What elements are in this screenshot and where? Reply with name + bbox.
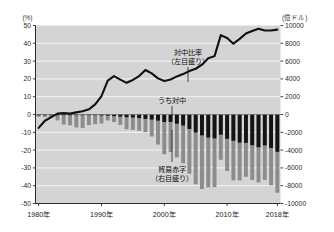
bar-china-deficit [200, 115, 204, 136]
bar-total-deficit [74, 115, 78, 128]
left-axis-tick-label: 20 [23, 75, 31, 82]
bar-total-deficit [62, 115, 66, 125]
bar-china-deficit [175, 115, 179, 124]
x-axis-tick-label: 2000年 [153, 210, 176, 219]
china-bar-annotation-text: うち対中 [158, 96, 186, 105]
left-axis-tick-label: -20 [21, 147, 31, 154]
left-axis-tick-label: -30 [21, 164, 31, 171]
x-axis-tick-label: 1990年 [90, 210, 113, 219]
right-axis-tick-label: -2000 [285, 129, 303, 136]
bar-china-deficit [150, 115, 154, 120]
bar-total-deficit [87, 115, 91, 126]
bar-china-deficit [187, 115, 191, 129]
bar-china-deficit [206, 115, 210, 138]
bar-china-deficit [244, 115, 248, 143]
chart-container: 50403020100-10-20-30-40-5010000800060004… [0, 0, 334, 232]
bar-china-deficit [257, 115, 261, 148]
x-axis-tick-label: 2018年 [266, 210, 289, 219]
left-axis-tick-label: 10 [23, 93, 31, 100]
line-annotation-subtext: （左目盛り） [167, 57, 209, 66]
bar-china-deficit [162, 115, 166, 122]
bar-total-deficit [93, 115, 97, 125]
left-axis-tick-label: 40 [23, 40, 31, 47]
deficit-bar-annotation-text: 貿易赤字 [158, 165, 186, 174]
left-axis-tick-label: -40 [21, 182, 31, 189]
bar-total-deficit [68, 115, 72, 126]
bar-china-deficit [275, 115, 279, 152]
x-axis-tick-label: 1980年 [27, 210, 50, 219]
left-axis-tick-label: 30 [23, 58, 31, 65]
bar-china-deficit [225, 115, 229, 139]
trade-deficit-chart: 50403020100-10-20-30-40-5010000800060004… [0, 0, 334, 232]
right-axis-unit-label: (億ドル) [282, 13, 307, 22]
bar-total-deficit [81, 115, 85, 129]
right-axis-tick-label: 2000 [285, 93, 300, 100]
left-axis-unit-label: (%) [22, 14, 32, 22]
x-axis-tick-label: 2010年 [216, 210, 239, 219]
bar-china-deficit [156, 115, 160, 121]
right-axis-tick-label: 0 [285, 111, 289, 118]
right-axis-tick-label: 4000 [285, 75, 300, 82]
right-axis-tick-label: 8000 [285, 40, 300, 47]
deficit-bar-annotation-subtext: （右目盛り） [151, 174, 193, 183]
right-axis-tick-label: -10000 [285, 200, 306, 207]
left-axis-tick-label: 0 [27, 111, 31, 118]
right-axis-tick-label: 10000 [285, 22, 304, 29]
bar-china-deficit [250, 115, 254, 146]
bar-china-deficit [231, 115, 235, 141]
left-axis-tick-label: -10 [21, 129, 31, 136]
bar-china-deficit [219, 115, 223, 135]
right-axis-tick-label: -8000 [285, 182, 303, 189]
bar-china-deficit [137, 115, 141, 119]
bar-china-deficit [131, 115, 135, 118]
right-axis-tick-label: -6000 [285, 164, 303, 171]
bar-china-deficit [238, 115, 242, 143]
right-axis-tick-label: -4000 [285, 147, 303, 154]
bar-china-deficit [181, 115, 185, 126]
bar-china-deficit [194, 115, 198, 133]
bar-total-deficit [100, 115, 104, 124]
bar-china-deficit [143, 115, 147, 119]
bar-china-deficit [269, 115, 273, 148]
line-annotation-text: 対中比率 [174, 48, 202, 57]
bar-china-deficit [263, 115, 267, 146]
left-axis-tick-label: -50 [21, 200, 31, 207]
left-axis-tick-label: 50 [23, 22, 31, 29]
bar-china-deficit [213, 115, 217, 139]
right-axis-tick-label: 6000 [285, 58, 300, 65]
